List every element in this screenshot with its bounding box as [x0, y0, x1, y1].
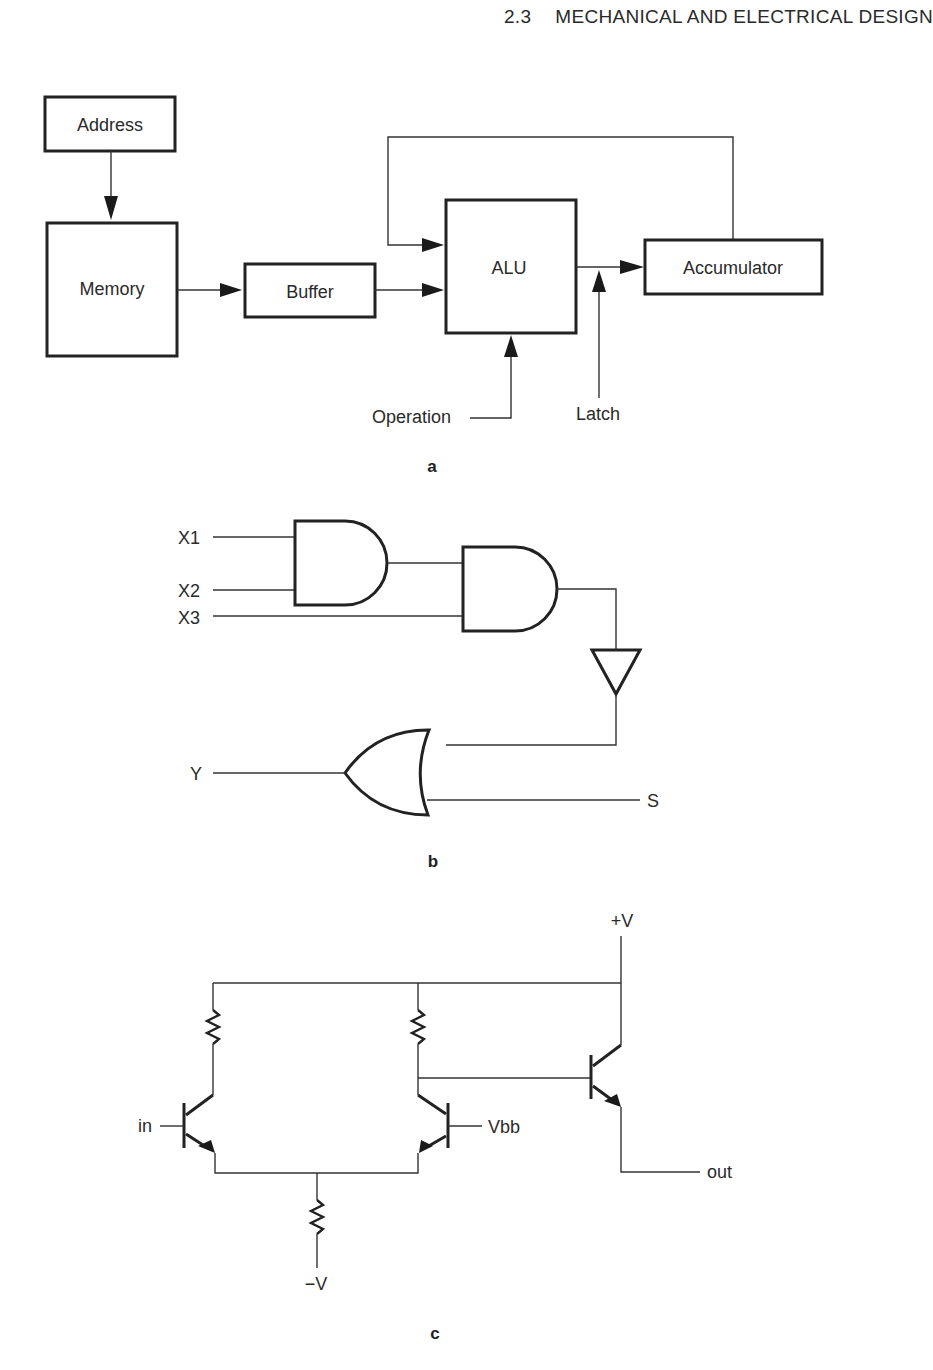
or-gate-icon [345, 730, 429, 815]
resistor-icon [412, 1010, 424, 1044]
figure-a-block-diagram: Address Memory Buffer ALU [45, 97, 822, 476]
and-gate-2-icon [463, 547, 557, 631]
buffer-triangle-icon [592, 650, 640, 694]
x3-label: X3 [178, 608, 200, 628]
address-block: Address [45, 97, 175, 151]
figure-c-circuit: +V in Vbb −V ou [138, 911, 732, 1343]
buffer-block: Buffer [245, 264, 375, 317]
figure-b-logic-diagram: X1 X2 X3 Y S b [178, 521, 659, 871]
and-gate-1-icon [295, 521, 387, 605]
s-label: S [647, 791, 659, 811]
resistor-icon [207, 1010, 219, 1044]
minus-v-label: −V [305, 1274, 328, 1294]
out-label: out [707, 1162, 732, 1182]
alu-label: ALU [491, 258, 526, 278]
buffer-label: Buffer [286, 282, 334, 302]
arrow-icon [592, 270, 606, 292]
memory-block: Memory [47, 223, 177, 356]
address-label: Address [77, 115, 143, 135]
x1-label: X1 [178, 528, 200, 548]
memory-label: Memory [79, 279, 144, 299]
arrow-icon [620, 260, 644, 274]
figure-b-caption: b [428, 852, 438, 871]
operation-label: Operation [372, 407, 451, 427]
in-label: in [138, 1116, 152, 1136]
latch-label: Latch [576, 404, 620, 424]
figure-a-caption: a [427, 457, 437, 476]
y-label: Y [190, 764, 202, 784]
arrow-icon [419, 1140, 433, 1153]
accumulator-label: Accumulator [683, 258, 783, 278]
arrow-icon [104, 196, 118, 220]
arrow-icon [422, 238, 444, 252]
alu-block: ALU [446, 200, 576, 333]
x2-label: X2 [178, 581, 200, 601]
plus-v-label: +V [611, 911, 634, 931]
arrow-icon [220, 283, 242, 297]
accumulator-block: Accumulator [645, 240, 822, 294]
figure-c-caption: c [430, 1324, 439, 1343]
arrow-icon [422, 283, 444, 297]
resistor-icon [311, 1200, 323, 1234]
arrow-icon [504, 335, 518, 357]
vbb-label: Vbb [488, 1117, 520, 1137]
